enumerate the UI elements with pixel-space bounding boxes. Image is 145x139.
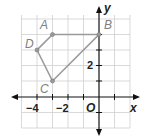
x-axis-arrow-left (11, 94, 18, 100)
y-tick-2: 2 (87, 59, 93, 71)
x-tick-neg4: −4 (26, 102, 39, 114)
x-axis-arrow-right (133, 94, 140, 100)
y-axis-label: y (103, 1, 112, 15)
point-a (51, 33, 55, 37)
y-axis-arrow-up (96, 6, 102, 13)
label-c: C (40, 82, 49, 96)
axes (13, 8, 138, 134)
label-d: D (25, 37, 34, 51)
x-tick-neg2: −2 (56, 102, 69, 114)
x-axis-label: x (129, 101, 138, 115)
label-b: B (104, 18, 112, 32)
y-axis-arrow-down (96, 129, 102, 136)
coordinate-plane: A B C D x y O −4 −2 2 (0, 0, 145, 139)
origin-label: O (86, 101, 96, 115)
label-a: A (39, 18, 48, 32)
point-d (35, 48, 39, 52)
point-b (97, 33, 101, 37)
point-c (51, 79, 55, 83)
